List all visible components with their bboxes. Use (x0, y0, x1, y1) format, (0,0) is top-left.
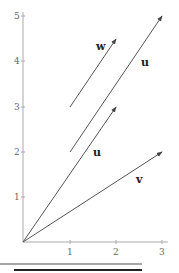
x-tick-label: 1 (67, 247, 73, 257)
label-u-lower: u (93, 146, 101, 159)
y-tick-label: 5 (14, 11, 20, 21)
label-u-upper: u (141, 56, 149, 69)
vector-w (70, 39, 116, 107)
vector-u-origin (23, 107, 116, 242)
label-w: w (95, 40, 106, 53)
axes: 1 2 3 4 5 1 2 3 (14, 11, 168, 257)
vectors (23, 16, 162, 242)
label-v: v (135, 173, 143, 186)
y-tick-label: 2 (14, 147, 20, 157)
x-tick-label: 2 (113, 247, 119, 257)
vector-u-translated (70, 16, 162, 152)
y-tick-label: 3 (14, 102, 20, 112)
vector-plot: 1 2 3 4 5 1 2 3 w u u v (0, 0, 179, 273)
x-tick-label: 3 (159, 247, 165, 257)
vector-v (23, 152, 162, 242)
y-tick-label: 4 (14, 56, 20, 66)
y-tick-label: 1 (14, 192, 20, 202)
